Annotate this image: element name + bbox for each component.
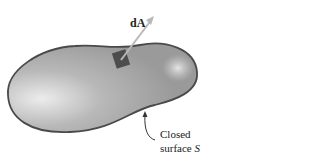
caption-line2: surface S	[160, 143, 200, 154]
vector-label-dA: dA	[130, 17, 145, 29]
vector-label-bold: A	[137, 16, 146, 30]
pointer-arrow	[145, 115, 155, 140]
arrowhead-icon	[146, 16, 154, 25]
pointer-arrowhead-icon	[143, 111, 148, 117]
surface-symbol: S	[195, 142, 201, 154]
caption-line2-text: surface	[160, 142, 195, 154]
caption-line1: Closed	[160, 129, 191, 140]
vector-label-prefix: d	[130, 16, 137, 30]
surface-highlight	[162, 54, 194, 82]
